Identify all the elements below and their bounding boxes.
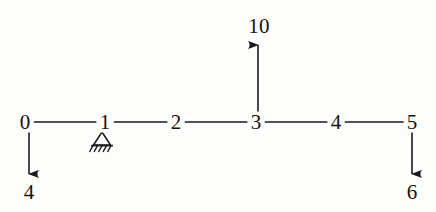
load-label-node-5: 6	[407, 182, 418, 203]
pin-support-icon	[90, 132, 114, 152]
beam-diagram: 0 1 2 3 4 5 4 10 6	[0, 0, 436, 212]
beam-diagram-canvas	[0, 0, 436, 212]
node-label-2: 2	[168, 112, 185, 133]
load-label-node-3: 10	[248, 16, 269, 37]
node-label-5: 5	[404, 112, 421, 133]
node-label-4: 4	[328, 112, 345, 133]
load-label-node-0: 4	[24, 182, 35, 203]
node-label-3: 3	[248, 112, 265, 133]
pin-support-triangle	[94, 132, 111, 145]
pin-support-hatching	[90, 146, 112, 152]
node-label-0: 0	[17, 112, 34, 133]
node-label-1: 1	[97, 112, 114, 133]
